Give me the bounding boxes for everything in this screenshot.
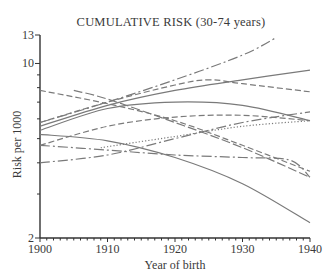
x-tick-label: 1920 [163,242,187,256]
data-line-series-9 [40,145,310,177]
x-tick-label: 1940 [298,242,322,256]
data-line-series-10 [101,121,310,148]
x-tick-label: 1900 [28,242,52,256]
data-line-series-5 [74,90,310,177]
x-tick-label: 1930 [231,242,255,256]
x-tick-label: 1910 [96,242,120,256]
axes: 2101319001910192019301940 [22,28,322,256]
y-tick-label: 13 [22,28,34,42]
line-chart: 2101319001910192019301940 [0,0,332,280]
plot-lines [40,38,310,223]
y-tick-label: 10 [22,56,34,70]
data-line-series-6 [40,102,310,130]
data-line-series-7 [40,115,310,145]
